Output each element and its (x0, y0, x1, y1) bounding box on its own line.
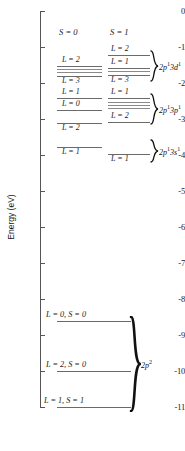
axis-tick-label: -8 (162, 294, 185, 304)
axis-tick (40, 47, 45, 48)
level-label: L = 2 (62, 55, 80, 64)
cfg-base: 2p (159, 106, 167, 115)
axis-tick-label: -3 (162, 114, 185, 124)
axis-tick-label: -6 (162, 222, 185, 232)
y-axis-line (40, 11, 41, 408)
axis-tick (40, 11, 45, 12)
energy-level (108, 105, 150, 106)
axis-tick-label: -2 (162, 78, 185, 88)
level-label: L = 1, S = 1 (44, 396, 84, 405)
cfg-sup: 1 (178, 61, 181, 67)
axis-tick-label: -1 (162, 42, 185, 52)
axis-tick (40, 371, 45, 372)
group-config-2p3p: 2p13p1 (159, 104, 181, 115)
axis-tick-label: -10 (162, 366, 185, 376)
level-label: L = 1 (111, 154, 129, 163)
level-label: L = 3 (111, 75, 129, 84)
energy-level (108, 68, 150, 69)
energy-level (108, 122, 150, 123)
axis-tick (40, 407, 45, 408)
energy-level (108, 55, 150, 56)
column-header-s0: S = 0 (59, 27, 78, 37)
energy-level (57, 72, 102, 73)
energy-level-diagram: 0 -1 -2 -3 -4 -5 -6 -7 -8 -9 -10 -11 Ene… (0, 0, 185, 451)
level-label: L = 2 (62, 123, 80, 132)
level-label: L = 0 (62, 99, 80, 108)
energy-level (57, 66, 102, 67)
axis-tick-label: -9 (162, 330, 185, 340)
cfg-base: 2p (159, 148, 167, 157)
energy-level (108, 102, 150, 103)
group-brace-2p3d (150, 50, 159, 86)
axis-tick-label: 0 (162, 6, 185, 16)
group-config-2p3d: 2p13d1 (159, 61, 181, 72)
level-label: L = 2, S = 0 (46, 360, 86, 369)
energy-level (57, 69, 102, 70)
energy-level (108, 108, 150, 109)
cfg-sup: 1 (177, 146, 180, 152)
cfg-base: 3p (170, 106, 178, 115)
axis-tick (40, 83, 45, 84)
cfg-sup: 2 (149, 359, 152, 365)
group-config-2p3s: 2p13s1 (159, 146, 180, 157)
axis-tick (40, 335, 45, 336)
axis-tick (40, 263, 45, 264)
axis-tick (40, 299, 45, 300)
axis-tick-label: -7 (162, 258, 185, 268)
group-config-2p2: 2p2 (141, 359, 152, 370)
column-header-s1: S = 1 (110, 27, 129, 37)
axis-tick (40, 227, 45, 228)
group-brace-2p2 (129, 316, 141, 416)
cfg-sup: 1 (178, 104, 181, 110)
energy-level (57, 371, 131, 372)
group-brace-2p3p (150, 93, 159, 129)
level-label: L = 1 (62, 87, 80, 96)
energy-level (57, 321, 131, 322)
level-label: L = 1 (111, 57, 129, 66)
level-label: L = 1 (62, 147, 80, 156)
level-label: L = 2 (111, 44, 129, 53)
energy-level (57, 110, 102, 111)
level-label: L = 0, S = 0 (46, 310, 86, 319)
cfg-base: 2p (141, 361, 149, 370)
energy-level (108, 98, 150, 99)
group-brace-2p3s (150, 139, 159, 167)
level-label: L = 3 (62, 76, 80, 85)
axis-tick-label: -11 (162, 402, 185, 412)
level-label: L = 1 (111, 87, 129, 96)
cfg-base: 2p (159, 63, 167, 72)
axis-tick (40, 191, 45, 192)
axis-tick-label: -5 (162, 186, 185, 196)
axis-tick (40, 119, 45, 120)
axis-tick (40, 155, 45, 156)
y-axis-title: Energy (eV) (6, 182, 16, 252)
energy-level (108, 71, 150, 72)
energy-level (57, 407, 131, 408)
level-label: L = 2 (111, 111, 129, 120)
cfg-base: 3d (170, 63, 178, 72)
